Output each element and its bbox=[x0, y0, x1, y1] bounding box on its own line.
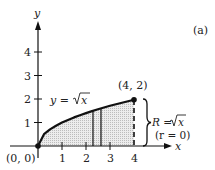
x-tick-label-4: 4 bbox=[131, 152, 138, 165]
x-axis-arrow-icon bbox=[164, 143, 172, 149]
x-tick-label-2: 2 bbox=[83, 152, 90, 165]
svg-text:y =: y = bbox=[49, 94, 69, 107]
radius-brace-icon bbox=[143, 99, 151, 146]
x-tick-label-3: 3 bbox=[107, 152, 114, 165]
y-tick-label-2: 2 bbox=[24, 93, 31, 106]
x-axis-label: x bbox=[175, 140, 182, 153]
radius-label: R = x bbox=[151, 115, 186, 128]
solid-of-revolution-diagram: 1 2 3 4 1 2 3 4 y x (0, 0) (4, 2) y = x … bbox=[0, 0, 215, 170]
svg-text:x: x bbox=[81, 94, 88, 107]
y-tick-label-1: 1 bbox=[24, 117, 31, 130]
y-tick-label-4: 4 bbox=[24, 46, 31, 59]
origin-point bbox=[35, 143, 41, 149]
y-axis-label: y bbox=[33, 7, 41, 20]
endpoint-label: (4, 2) bbox=[118, 79, 148, 92]
origin-label: (0, 0) bbox=[6, 152, 36, 165]
curve-label: y = x bbox=[49, 93, 90, 107]
endpoint-point bbox=[131, 97, 137, 103]
x-tick-label-1: 1 bbox=[59, 152, 66, 165]
svg-text:x: x bbox=[178, 116, 184, 128]
inner-radius-label: (r = 0) bbox=[155, 129, 190, 141]
y-tick-label-3: 3 bbox=[24, 70, 31, 83]
panel-label: (a) bbox=[193, 24, 208, 37]
svg-text:R =: R = bbox=[151, 116, 172, 128]
y-axis-arrow-icon bbox=[35, 21, 41, 30]
